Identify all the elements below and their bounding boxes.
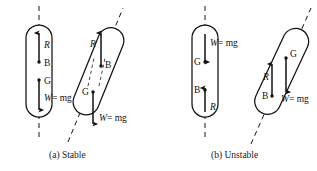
gravity-point-b1 bbox=[203, 60, 206, 63]
label-W-eq-b2: = mg bbox=[289, 94, 309, 104]
label-G-b2: G bbox=[290, 49, 297, 59]
label-W-eq-a1: = mg bbox=[52, 93, 72, 103]
caption-panel-b: (b) Unstable bbox=[211, 150, 258, 160]
panel-a-upright-body: R B G W = mg bbox=[26, 6, 72, 139]
label-G-a1: G bbox=[44, 76, 51, 86]
panel-b-tilted-body: G R B W = mg bbox=[250, 8, 312, 144]
label-R-b1: R bbox=[209, 102, 216, 112]
label-B-a1: B bbox=[44, 58, 50, 68]
label-G-a2: G bbox=[82, 87, 89, 97]
label-B-b1: B bbox=[194, 85, 200, 95]
label-R-a2: R bbox=[89, 39, 96, 49]
label-R-b2: R bbox=[262, 72, 269, 82]
label-R-a1: R bbox=[43, 40, 50, 50]
caption-panel-a: (a) Stable bbox=[49, 150, 86, 160]
panel-a-tilted-body: R B G W = mg bbox=[68, 8, 128, 142]
body-outline-a2 bbox=[69, 24, 128, 119]
label-W-eq-b1: = mg bbox=[218, 38, 238, 48]
label-W-eq-a2: = mg bbox=[107, 113, 127, 123]
label-B-a2: B bbox=[105, 60, 111, 70]
label-G-b1: G bbox=[194, 57, 201, 67]
buoyancy-point-a1 bbox=[37, 60, 40, 63]
gravity-point-b2 bbox=[284, 56, 287, 59]
buoyancy-point-b2 bbox=[270, 94, 273, 97]
buoyancy-point-a2 bbox=[99, 64, 102, 67]
figure-root: R B G W = mg R B G W = mg bbox=[0, 0, 317, 171]
body-outline-b2 bbox=[250, 24, 312, 118]
stability-diagram: R B G W = mg R B G W = mg bbox=[0, 0, 317, 171]
label-B-b2: B bbox=[262, 91, 268, 101]
panel-b-upright-body: W = mg G B R bbox=[192, 6, 238, 139]
